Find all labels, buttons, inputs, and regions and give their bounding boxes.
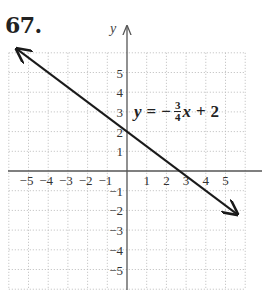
x-tick-label: −4 [39, 173, 53, 188]
y-tick-label: 3 [117, 105, 124, 120]
coordinate-plane: y −5−4−3−2−112345 54321−1−2−3−4−5 [0, 0, 267, 292]
x-tick-label: 2 [163, 173, 170, 188]
x-tick-label: −5 [20, 173, 34, 188]
y-axis-label: y [108, 21, 117, 36]
x-tick-label: 4 [203, 173, 210, 188]
x-tick-label: 1 [143, 173, 150, 188]
y-tick-label: −2 [109, 203, 123, 218]
x-tick-label: −2 [79, 173, 93, 188]
y-tick-label: −1 [109, 184, 123, 199]
equation-sign: − [161, 102, 171, 122]
equation-equals: = [147, 102, 157, 122]
y-tick-label: −5 [109, 263, 123, 278]
equation-variable: x [182, 102, 191, 122]
equation-lhs: y [134, 102, 142, 122]
y-tick-label: 1 [117, 144, 124, 159]
equation-constant: 2 [211, 102, 220, 122]
x-tick-label: 5 [222, 173, 229, 188]
x-tick-labels: −5−4−3−2−112345 [20, 173, 229, 188]
fraction-denominator: 4 [175, 112, 181, 123]
equation-plus: + [196, 102, 206, 122]
equation-label: y = − 3 4 x + 2 [134, 100, 219, 123]
y-tick-label: 4 [117, 85, 124, 100]
x-tick-label: −3 [59, 173, 73, 188]
y-tick-label: −4 [109, 243, 123, 258]
y-tick-label: −3 [109, 223, 123, 238]
equation-fraction: 3 4 [174, 100, 182, 123]
y-tick-label: 5 [117, 66, 124, 81]
